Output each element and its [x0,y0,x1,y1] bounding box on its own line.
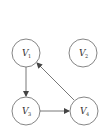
node-v4-sub: 4 [86,111,89,117]
node-v1-sub: 1 [28,53,31,59]
node-v4: V 4 [70,97,98,125]
graph-canvas: V 1 V 2 V 3 V 4 [0,0,107,135]
node-v3: V 3 [12,97,40,125]
node-v2: V 2 [69,39,97,67]
node-v2-sub: 2 [85,53,88,59]
edge-v4-v1 [37,63,74,100]
node-v1: V 1 [12,39,40,67]
node-v3-sub: 3 [28,111,31,117]
